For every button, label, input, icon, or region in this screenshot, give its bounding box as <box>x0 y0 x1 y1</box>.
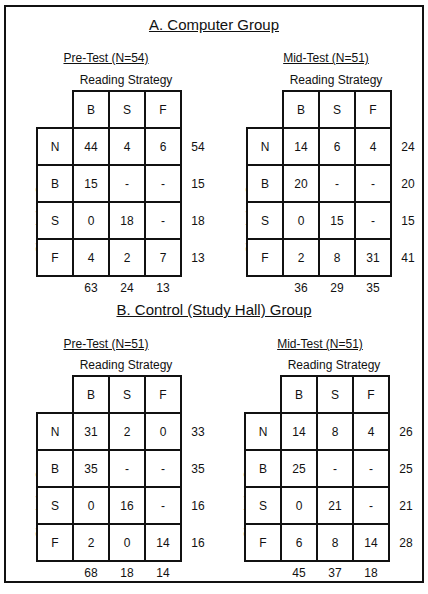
row-header-cell: F <box>244 523 282 562</box>
row-total: 16 <box>182 523 214 562</box>
data-cell: - <box>144 201 182 240</box>
row-total: 13 <box>182 238 214 277</box>
data-cell: - <box>108 164 146 203</box>
col-axis-label-computer-midtest: Reading Strategy <box>276 73 396 87</box>
row-total: 15 <box>182 164 214 203</box>
row-header-cell: N <box>244 412 282 451</box>
row-header-cell: S <box>36 201 74 240</box>
data-cell: 2 <box>282 238 320 277</box>
data-cell: 35 <box>72 449 110 488</box>
col-total: 35 <box>354 277 392 299</box>
data-cell: - <box>144 449 182 488</box>
data-cell: 2 <box>72 523 110 562</box>
data-cell: 4 <box>354 127 392 166</box>
col-header-cell: S <box>108 375 146 414</box>
data-cell: 14 <box>280 412 318 451</box>
col-header-cell: B <box>282 90 320 129</box>
data-cell: - <box>352 449 390 488</box>
col-total: 18 <box>108 562 146 584</box>
row-total: 26 <box>390 412 422 451</box>
col-total: 36 <box>282 277 320 299</box>
data-cell: 8 <box>318 238 356 277</box>
table-title-computer-pretest: Pre-Test (N=54) <box>26 51 186 65</box>
data-cell: 6 <box>280 523 318 562</box>
row-header-cell: S <box>244 486 282 525</box>
row-total: 28 <box>390 523 422 562</box>
row-header-cell: F <box>36 523 74 562</box>
data-cell: - <box>144 164 182 203</box>
col-axis-label-control-midtest: Reading Strategy <box>274 358 394 372</box>
col-total: 13 <box>144 277 182 299</box>
data-cell: 31 <box>354 238 392 277</box>
data-cell: 14 <box>352 523 390 562</box>
data-cell: 44 <box>72 127 110 166</box>
col-header-cell: F <box>144 90 182 129</box>
col-header-cell: S <box>108 90 146 129</box>
data-cell: 25 <box>280 449 318 488</box>
row-header-cell: B <box>36 449 74 488</box>
col-total: 68 <box>72 562 110 584</box>
data-cell: 4 <box>108 127 146 166</box>
data-cell: 0 <box>108 523 146 562</box>
data-cell: - <box>316 449 354 488</box>
data-cell: 6 <box>318 127 356 166</box>
data-cell: 7 <box>144 238 182 277</box>
data-cell: 14 <box>144 523 182 562</box>
data-cell: - <box>108 449 146 488</box>
data-cell: 31 <box>72 412 110 451</box>
row-total: 18 <box>182 201 214 240</box>
data-cell: 8 <box>316 523 354 562</box>
row-total: 24 <box>392 127 424 166</box>
data-cell: 21 <box>316 486 354 525</box>
col-total: 63 <box>72 277 110 299</box>
data-cell: 15 <box>318 201 356 240</box>
row-total: 15 <box>392 201 424 240</box>
col-total: 18 <box>352 562 390 584</box>
data-cell: 4 <box>72 238 110 277</box>
section-title-control-group: B. Control (Study Hall) Group <box>0 301 428 318</box>
data-cell: 4 <box>352 412 390 451</box>
data-cell: 15 <box>72 164 110 203</box>
data-cell: 2 <box>108 238 146 277</box>
col-total: 14 <box>144 562 182 584</box>
table-title-control-midtest: Mid-Test (N=51) <box>240 337 400 351</box>
col-total: 45 <box>280 562 318 584</box>
col-header-cell: F <box>354 90 392 129</box>
data-cell: - <box>354 164 392 203</box>
row-header-cell: N <box>36 412 74 451</box>
row-total: 25 <box>390 449 422 488</box>
col-header-cell: S <box>316 375 354 414</box>
data-cell: 0 <box>282 201 320 240</box>
row-header-cell: B <box>36 164 74 203</box>
data-cell: 8 <box>316 412 354 451</box>
row-total: 20 <box>392 164 424 203</box>
col-header-cell: B <box>280 375 318 414</box>
row-header-cell: B <box>246 164 284 203</box>
row-header-cell: S <box>36 486 74 525</box>
row-header-cell: F <box>246 238 284 277</box>
data-cell: 0 <box>144 412 182 451</box>
col-header-cell: F <box>144 375 182 414</box>
table-title-computer-midtest: Mid-Test (N=51) <box>246 51 406 65</box>
row-total: 16 <box>182 486 214 525</box>
col-header-cell: F <box>352 375 390 414</box>
data-cell: 20 <box>282 164 320 203</box>
col-axis-label-control-pretest: Reading Strategy <box>66 358 186 372</box>
row-header-cell: S <box>246 201 284 240</box>
data-cell: 16 <box>108 486 146 525</box>
data-cell: 0 <box>72 201 110 240</box>
col-header-cell: S <box>318 90 356 129</box>
data-cell: 6 <box>144 127 182 166</box>
col-total: 24 <box>108 277 146 299</box>
data-cell: - <box>352 486 390 525</box>
data-cell: - <box>144 486 182 525</box>
data-cell: 14 <box>282 127 320 166</box>
row-header-cell: B <box>244 449 282 488</box>
row-header-cell: N <box>36 127 74 166</box>
col-header-cell: B <box>72 90 110 129</box>
data-cell: 18 <box>108 201 146 240</box>
row-total: 33 <box>182 412 214 451</box>
col-total: 29 <box>318 277 356 299</box>
row-total: 21 <box>390 486 422 525</box>
row-total: 41 <box>392 238 424 277</box>
